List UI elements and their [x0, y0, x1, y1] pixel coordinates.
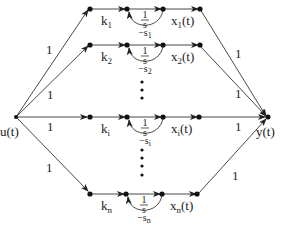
feedback-n: −sn — [137, 212, 151, 225]
node-row1-b — [124, 6, 129, 11]
in-weight-2: 1 — [47, 87, 54, 102]
gain-k1: k1 — [101, 13, 112, 30]
state-x2: x2(t) — [171, 49, 194, 66]
in-weight-n: 1 — [46, 160, 53, 175]
node-rowi-x — [196, 114, 201, 119]
gain-k2: k2 — [101, 49, 112, 66]
node-output — [266, 115, 271, 120]
out-weight-1: 1 — [235, 46, 242, 61]
edge-row2-y — [200, 46, 266, 116]
node-rown-c — [159, 191, 164, 196]
feedback-2: −s2 — [138, 63, 152, 76]
node-row2-x — [197, 42, 202, 47]
ellipsis-dot — [140, 148, 143, 151]
feedback-1: −s1 — [138, 27, 152, 40]
ellipsis-dot — [140, 156, 143, 159]
output-edges — [198, 9, 266, 194]
node-row2-c — [160, 42, 165, 47]
out-weight-n: 1 — [232, 168, 239, 183]
output-label: y(t) — [256, 124, 275, 139]
node-rown-b — [123, 191, 128, 196]
node-row1-x — [197, 6, 202, 11]
node-rown-a — [87, 191, 92, 196]
in-weight-1: 1 — [46, 42, 53, 57]
ellipsis-dot — [140, 173, 143, 176]
node-rowi-c — [160, 114, 165, 119]
input-label: u(t) — [0, 124, 19, 139]
ellipsis-dot — [140, 164, 143, 167]
node-rowi-a — [87, 114, 92, 119]
feedback-i: −si — [139, 135, 152, 148]
node-row1-c — [160, 6, 165, 11]
edge-row1-y — [200, 9, 266, 116]
gain-ki: ki — [101, 121, 111, 138]
out-weight-i: 1 — [235, 119, 242, 134]
node-row1-a — [87, 6, 92, 11]
ellipsis-dot — [140, 96, 143, 99]
node-input — [14, 115, 18, 119]
node-row2-a — [87, 42, 92, 47]
in-weight-i: 1 — [47, 119, 54, 134]
state-xn: xn(t) — [170, 198, 193, 215]
ellipsis-dot — [140, 88, 143, 91]
signal-flow-graph: u(t) y(t) 1 1 1 1 1 1 1 1 k1 k2 ki kn x1… — [0, 0, 284, 234]
out-weight-2: 1 — [235, 86, 242, 101]
node-row2-b — [124, 42, 129, 47]
state-x1: x1(t) — [171, 13, 194, 30]
gain-kn: kn — [101, 198, 113, 215]
node-rowi-b — [124, 114, 129, 119]
ellipsis-dot — [140, 80, 143, 83]
state-xi: xi(t) — [171, 121, 192, 138]
node-rown-x — [194, 191, 199, 196]
